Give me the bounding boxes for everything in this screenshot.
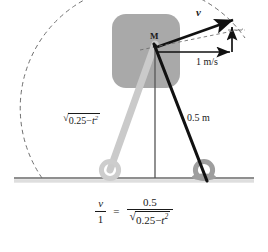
radical-group-equation: √0.25−t2 xyxy=(130,211,171,226)
radicand-ghost-exponent: 2 xyxy=(95,114,98,121)
radicand-equation-value: 0.25 xyxy=(136,214,155,226)
equation-lhs-fraction: v 1 xyxy=(95,197,107,225)
label-mass-M: M xyxy=(150,32,159,41)
radicand-ghost-value: 0.25 xyxy=(69,115,87,126)
ground-shadow xyxy=(14,179,254,183)
pivot-point-dot xyxy=(153,44,157,48)
radical-group-ghost: √0.25−t2 xyxy=(63,113,100,126)
result-equation: v 1 = 0.5 √0.25−t2 xyxy=(0,196,268,226)
label-velocity-vector: v xyxy=(196,7,201,18)
physics-diagram-figure: M v 1 m/s 0.5 m √0.25−t2 v 1 = 0.5 √0.25… xyxy=(0,0,268,252)
radicand-equation: 0.25−t2 xyxy=(135,211,170,226)
label-rod-length: 0.5 m xyxy=(187,113,210,123)
radicand-equation-exponent: 2 xyxy=(164,212,168,221)
label-ghost-rod-length: √0.25−t2 xyxy=(63,113,100,126)
radicand-ghost: 0.25−t2 xyxy=(68,113,100,126)
label-horizontal-speed: 1 m/s xyxy=(196,57,218,67)
equation-rhs-fraction: 0.5 √0.25−t2 xyxy=(127,196,174,226)
equation-lhs-numerator: v xyxy=(95,197,106,210)
equation-equals-sign: = xyxy=(112,205,120,217)
equation-rhs-denominator: √0.25−t2 xyxy=(127,209,174,226)
equation-lhs-denominator: 1 xyxy=(95,211,107,225)
equation-rhs-numerator: 0.5 xyxy=(140,196,160,209)
